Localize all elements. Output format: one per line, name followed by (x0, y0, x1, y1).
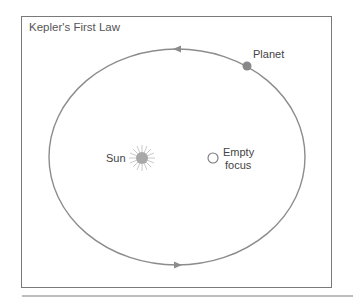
arrow-right-icon (174, 262, 182, 269)
sun-label: Sun (106, 152, 126, 164)
planet-icon (243, 62, 252, 71)
orbit-diagram (0, 0, 353, 297)
sun-core (136, 152, 148, 164)
empty-focus-label-1: Empty (223, 146, 254, 158)
empty-focus-icon (208, 153, 218, 163)
empty-focus-label-2: focus (225, 159, 251, 171)
orbit-ellipse (49, 49, 305, 265)
planet-label: Planet (253, 48, 284, 60)
arrow-left-icon (173, 46, 181, 53)
